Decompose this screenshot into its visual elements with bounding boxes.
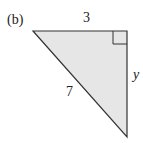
- side-label-hypotenuse: 7: [66, 85, 73, 99]
- side-label-right: y: [133, 68, 139, 82]
- part-label: (b): [7, 13, 23, 27]
- side-label-top: 3: [83, 11, 90, 25]
- right-triangle: [33, 31, 127, 137]
